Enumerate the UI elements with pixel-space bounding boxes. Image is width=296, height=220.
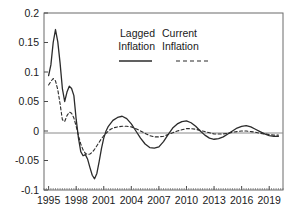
x-tick-label: 2010 [175, 194, 199, 206]
x-axis-tick-labels: 199519982001200420072010201320162019 [37, 194, 281, 206]
y-axis-tick-labels: 0.20.150.10.050-0.05-0.1 [15, 7, 39, 196]
y-tick-label: 0.2 [24, 7, 39, 19]
chart-canvas: 0.20.150.10.050-0.05-0.1 199519982001200… [0, 0, 296, 220]
legend-label-lagged-line2: Inflation [118, 40, 155, 52]
y-axis-ticks [44, 13, 48, 190]
chart-legend: Lagged Inflation Current Inflation [118, 27, 209, 61]
x-tick-label: 1998 [64, 194, 88, 206]
x-tick-label: 2001 [92, 194, 116, 206]
x-tick-label: 2013 [202, 194, 226, 206]
y-tick-label: 0 [33, 125, 39, 137]
x-tick-label: 2007 [147, 194, 171, 206]
y-tick-label: 0.1 [24, 66, 39, 78]
legend-label-current-line2: Inflation [162, 40, 199, 52]
y-tick-label: -0.05 [15, 154, 39, 166]
x-tick-label: 2019 [258, 194, 282, 206]
x-tick-label: 2016 [230, 194, 254, 206]
legend-label-current-line1: Current [162, 27, 197, 39]
series-line-current-inflation [49, 78, 279, 154]
x-tick-label: 2004 [120, 194, 144, 206]
y-tick-label: 0.05 [19, 95, 40, 107]
y-tick-label: 0.15 [19, 36, 40, 48]
legend-label-lagged-line1: Lagged [120, 27, 155, 39]
inflation-impulse-response-chart: 0.20.150.10.050-0.05-0.1 199519982001200… [0, 0, 296, 220]
x-tick-label: 1995 [37, 194, 61, 206]
